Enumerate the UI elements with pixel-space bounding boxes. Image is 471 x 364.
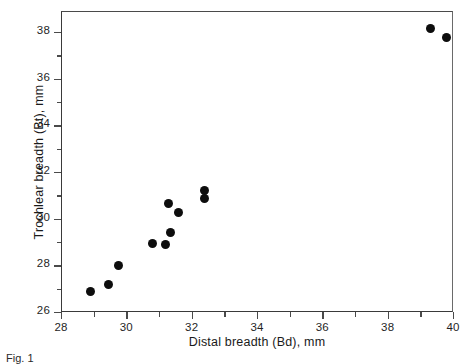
y-axis-major-tick [54,219,61,220]
y-axis-major-tick [54,79,61,80]
y-axis-minor-tick [57,242,62,243]
x-axis-tick-label: 36 [302,321,342,333]
x-axis-tick-label: 30 [106,321,146,333]
figure-caption: Fig. 1 [6,352,34,364]
x-axis-minor-tick [355,312,356,317]
x-axis-minor-tick [94,312,95,317]
y-axis-minor-tick [57,55,62,56]
x-axis-minor-tick [290,312,291,317]
x-axis-major-tick [257,312,258,319]
x-axis-major-tick [453,312,454,319]
y-axis-minor-tick [57,195,62,196]
x-axis-minor-tick [159,312,160,317]
x-axis-minor-tick [224,312,225,317]
y-axis-major-tick [54,32,61,33]
x-axis-title: Distal breadth (Bd), mm [61,335,453,349]
y-axis-title: Trochlear breadth (Bt), mm [32,47,46,277]
y-axis-major-tick [54,172,61,173]
x-axis-major-tick [126,312,127,319]
x-axis-tick-label: 32 [172,321,212,333]
y-axis-tick-label: 38 [20,24,50,36]
x-axis-major-tick [192,312,193,319]
x-axis-tick-label: 38 [368,321,408,333]
x-axis-tick-label: 40 [433,321,471,333]
x-axis-major-tick [388,312,389,319]
y-axis-minor-tick [57,289,62,290]
y-axis-major-tick [54,312,61,313]
y-axis-major-tick [54,265,61,266]
x-axis-tick-label: 28 [41,321,81,333]
scatter-plot-figure: 2830323436384026283032343638 Distal brea… [0,0,471,364]
y-axis-tick-label: 26 [20,304,50,316]
x-axis-minor-tick [420,312,421,317]
plot-frame [61,11,453,312]
x-axis-major-tick [61,312,62,319]
x-axis-major-tick [322,312,323,319]
y-axis-major-tick [54,125,61,126]
y-axis-minor-tick [57,102,62,103]
y-axis-minor-tick [57,149,62,150]
x-axis-tick-label: 34 [237,321,277,333]
